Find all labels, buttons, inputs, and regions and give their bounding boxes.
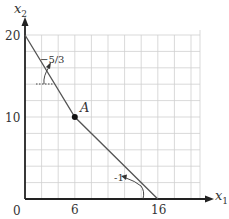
- tick-y-10: 10: [5, 112, 20, 124]
- y-axis-label: x2: [14, 2, 27, 19]
- slope-upper-annotation: [36, 62, 54, 84]
- diagram: x2 x1 20 10 0 6 16 A −5/3 -1: [0, 0, 229, 219]
- diagram-canvas: [0, 0, 229, 219]
- tick-x-16: 16: [151, 204, 166, 216]
- tick-origin: 0: [13, 205, 21, 217]
- slope-upper-label: −5/3: [40, 55, 64, 65]
- slope-lower-label: -1: [114, 173, 124, 183]
- point-a-label: A: [80, 101, 89, 114]
- point-a-marker: [72, 114, 78, 120]
- x-axis-label: x1: [215, 189, 228, 206]
- y-axis-label-subscript: 2: [21, 9, 27, 19]
- x-axis-label-subscript: 1: [222, 196, 228, 206]
- tick-y-20: 20: [5, 30, 20, 42]
- x-axis-arrow-icon: [205, 196, 214, 203]
- tick-x-6: 6: [71, 204, 79, 216]
